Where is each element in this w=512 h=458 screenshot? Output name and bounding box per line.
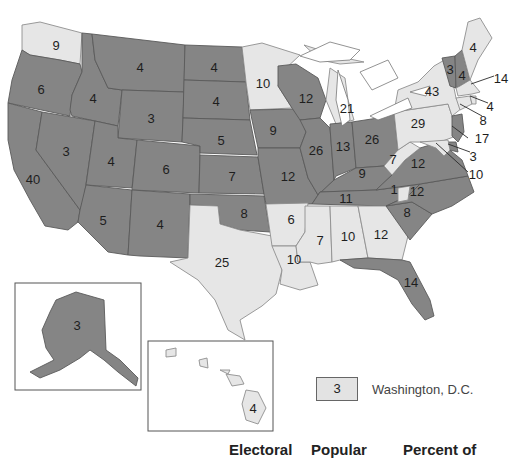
label-sd: 4 — [212, 94, 219, 109]
label-md: 10 — [469, 167, 483, 182]
label-ne: 5 — [217, 133, 224, 148]
label-ok: 8 — [240, 206, 247, 221]
label-ri: 4 — [486, 99, 493, 114]
label-nd: 4 — [210, 60, 217, 75]
label-fl: 14 — [404, 275, 418, 290]
label-mn: 10 — [256, 76, 270, 91]
label-me: 4 — [469, 40, 476, 55]
label-tn: 11 — [339, 191, 353, 206]
label-ms: 7 — [316, 233, 323, 248]
label-ny: 43 — [425, 84, 439, 99]
label-nc-split: 1 — [390, 182, 397, 197]
label-nj: 17 — [475, 131, 489, 146]
label-ks: 7 — [228, 169, 235, 184]
label-pa: 29 — [411, 116, 425, 131]
label-az: 5 — [99, 213, 106, 228]
state-nc-east-split — [398, 186, 410, 202]
label-oh: 26 — [365, 132, 379, 147]
label-il: 26 — [309, 143, 323, 158]
dc-legend-label: Washington, D.C. — [372, 382, 473, 397]
label-nc: 12 — [410, 184, 424, 199]
label-mt: 4 — [136, 60, 143, 75]
state-florida — [340, 258, 434, 320]
label-co: 6 — [162, 162, 169, 177]
label-ut: 4 — [107, 154, 114, 169]
label-vt: 3 — [446, 62, 453, 77]
column-header-popular: Popular — [311, 441, 367, 458]
state-new-jersey — [452, 114, 464, 142]
label-ky: 9 — [358, 166, 365, 181]
label-la: 10 — [287, 252, 301, 267]
label-ar: 6 — [287, 212, 294, 227]
label-wa: 9 — [52, 38, 59, 53]
column-header-electoral: Electoral — [229, 441, 292, 458]
label-ca: 40 — [26, 172, 40, 187]
leader-ma — [471, 76, 494, 84]
label-ga: 12 — [374, 227, 388, 242]
column-header-percent: Percent of — [403, 441, 476, 458]
label-al: 10 — [341, 229, 355, 244]
label-wy: 3 — [147, 111, 154, 126]
label-in: 13 — [336, 139, 350, 154]
label-wi: 12 — [299, 91, 313, 106]
label-va: 12 — [411, 156, 425, 171]
label-nv: 3 — [62, 144, 69, 159]
label-sc: 8 — [403, 205, 410, 220]
label-or: 6 — [37, 82, 44, 97]
label-mi: 21 — [340, 101, 354, 116]
dc-legend-swatch: 3 — [316, 377, 358, 401]
label-hi: 4 — [249, 401, 256, 416]
label-id: 4 — [89, 91, 96, 106]
label-ma: 14 — [494, 71, 508, 86]
label-mo: 12 — [281, 169, 295, 184]
label-ak: 3 — [73, 318, 80, 333]
label-de: 3 — [469, 149, 476, 164]
label-ia: 9 — [269, 123, 276, 138]
label-wv: 7 — [389, 152, 396, 167]
label-nm: 4 — [156, 217, 163, 232]
label-tx: 25 — [215, 255, 229, 270]
label-nh: 4 — [458, 68, 465, 83]
label-ct: 8 — [479, 113, 486, 128]
